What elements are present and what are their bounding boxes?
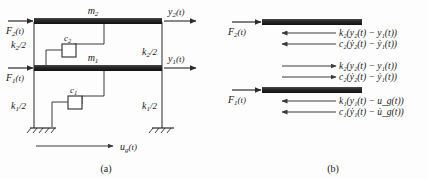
label-y1: y1(t) bbox=[167, 53, 184, 66]
label-F2-arg: (t) bbox=[16, 26, 25, 36]
fbd-bar-m2 bbox=[262, 19, 362, 25]
label-k2-right: k2/2 bbox=[142, 46, 157, 59]
ground-support-right bbox=[149, 128, 174, 133]
label-m2: m2 bbox=[88, 5, 99, 18]
label-k2-left-suffix: /2 bbox=[18, 40, 27, 50]
fbd-expr-k1-bot: k₁(y₁(t) − u_g(t)) bbox=[339, 96, 404, 107]
label-m1-sub: 1 bbox=[95, 57, 99, 65]
fbd-label-F2-arg: (t) bbox=[238, 27, 247, 37]
fbd-expr-k2-top: k₂(y₂(t) − y₁(t)) bbox=[339, 28, 397, 39]
ground-support-left bbox=[27, 128, 56, 133]
label-k1-right: k1/2 bbox=[142, 100, 157, 113]
label-k1-left-suffix: /2 bbox=[18, 101, 27, 111]
label-k2-right-suffix: /2 bbox=[149, 47, 158, 57]
label-c2: c2 bbox=[64, 33, 72, 44]
label-ug-arg: (t) bbox=[129, 142, 138, 152]
damper-c2-upper-link bbox=[74, 24, 104, 44]
damper-c1-upper-link bbox=[82, 71, 104, 96]
fbd-expr-k2-mid: k₂(y₂(t) − y₁(t)) bbox=[339, 61, 397, 72]
label-c1-sub: 1 bbox=[74, 89, 77, 96]
label-m1: m1 bbox=[88, 52, 99, 65]
damper-c2-cylinder bbox=[62, 44, 76, 57]
label-F1-arg: (t) bbox=[16, 73, 25, 83]
panel-b: F2(t) F1(t) k₂(y₂(t) − y₁(t)) c₂(ẏ₂(t) −… bbox=[227, 19, 404, 175]
label-m1-base: m bbox=[88, 52, 95, 63]
mass-bar-m1 bbox=[34, 65, 162, 71]
fbd-label-F1-arg: (t) bbox=[238, 95, 247, 105]
damper-c1-cylinder bbox=[68, 96, 82, 109]
label-y2-arg: (t) bbox=[176, 7, 185, 17]
fbd-bar-m1 bbox=[262, 87, 362, 93]
figure-container: m2 m1 F2(t) F1(t) y2(t) y1(t) k2/2 k2/2 … bbox=[0, 0, 428, 179]
fbd-label-F2: F2(t) bbox=[227, 26, 246, 39]
label-m2-sub: 2 bbox=[95, 10, 99, 18]
label-ug: ug(t) bbox=[120, 141, 137, 154]
label-c2-sub: 2 bbox=[68, 37, 72, 44]
caption-panel-a: (a) bbox=[100, 163, 111, 175]
label-k1-right-suffix: /2 bbox=[149, 101, 158, 111]
mass-bar-m2 bbox=[34, 18, 162, 24]
damper-c2-lower-link bbox=[46, 50, 62, 65]
fbd-expr-c1-bot: c₁(ẏ₁(t) − u̇_g(t)) bbox=[339, 107, 404, 118]
fbd-label-F1: F1(t) bbox=[227, 94, 246, 107]
label-y1-arg: (t) bbox=[176, 54, 185, 64]
label-y2: y2(t) bbox=[167, 6, 184, 19]
damper-c1-ground-link bbox=[52, 102, 68, 127]
panel-a: m2 m1 F2(t) F1(t) y2(t) y1(t) k2/2 k2/2 … bbox=[5, 5, 196, 175]
label-k2-left: k2/2 bbox=[11, 39, 26, 52]
label-F2: F2(t) bbox=[5, 25, 24, 38]
label-m2-base: m bbox=[88, 5, 95, 16]
label-F1: F1(t) bbox=[5, 72, 24, 85]
fbd-expr-c2-top: c₂(ẏ₂(t) − ẏ₁(t)) bbox=[339, 39, 397, 50]
label-k1-left: k1/2 bbox=[11, 100, 26, 113]
caption-panel-b: (b) bbox=[327, 163, 339, 175]
fbd-expr-c2-mid: c₂(ẏ₂(t) − ẏ₁(t)) bbox=[339, 72, 397, 83]
label-c1: c1 bbox=[70, 85, 77, 96]
